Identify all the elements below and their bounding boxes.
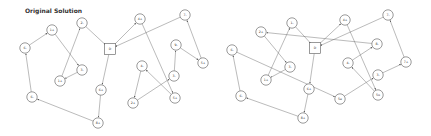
route-edge xyxy=(29,33,47,45)
customer-node: 3- xyxy=(169,71,179,81)
svg-text:3-: 3- xyxy=(376,73,379,77)
route-edge xyxy=(304,94,308,112)
customer-node: 1+ xyxy=(55,76,65,86)
customer-node: 2+ xyxy=(256,27,266,37)
customer-node: 5u xyxy=(373,90,383,100)
route-edge xyxy=(187,20,201,58)
svg-text:3-: 3- xyxy=(288,65,291,69)
svg-text:5+: 5+ xyxy=(201,61,206,65)
customer-node: 7+ xyxy=(401,57,411,67)
route-edge xyxy=(390,20,404,57)
customer-node: 6+ xyxy=(304,84,314,94)
customer-node: 6- xyxy=(27,92,37,102)
route-edge xyxy=(352,47,372,60)
route-edge xyxy=(55,34,78,65)
svg-text:2+: 2+ xyxy=(259,30,264,34)
route-edge xyxy=(102,54,109,84)
modified-solution-graph: D2+1-4+7-8-6-3-1+4-7+3-6+5e5u6-8+ xyxy=(227,10,411,123)
original-solution-graph: D1+6-2-3-1+4+7-9-5+4-3-2+5+6+8+6- xyxy=(20,10,208,128)
svg-text:6+: 6+ xyxy=(307,87,312,91)
svg-text:1-: 1- xyxy=(290,21,293,25)
route-edge xyxy=(233,56,240,91)
svg-text:4-: 4- xyxy=(346,61,349,65)
customer-node: 6+ xyxy=(96,85,106,95)
customer-node: 6- xyxy=(20,43,30,53)
svg-text:8+: 8+ xyxy=(96,121,101,125)
customer-node: 4- xyxy=(343,58,353,68)
customer-node: 8+ xyxy=(298,113,308,123)
route-edge xyxy=(86,27,106,45)
svg-text:1+: 1+ xyxy=(58,79,63,83)
svg-text:5e: 5e xyxy=(338,97,342,101)
route-edge xyxy=(137,79,169,100)
route-edge xyxy=(26,54,31,92)
svg-text:3-: 3- xyxy=(172,74,175,78)
route-edge xyxy=(347,25,376,90)
svg-text:4+: 4+ xyxy=(343,18,348,22)
route-edge xyxy=(310,53,314,83)
svg-text:4+: 4+ xyxy=(138,17,143,21)
route-edge xyxy=(65,72,77,78)
route-edge xyxy=(267,33,372,44)
customer-node: 5+ xyxy=(170,93,180,103)
svg-text:2-: 2- xyxy=(80,21,83,25)
route-edge xyxy=(344,78,373,96)
svg-text:9-: 9- xyxy=(174,43,177,47)
customer-node: 2- xyxy=(77,18,87,28)
customer-node: 8- xyxy=(372,39,382,49)
svg-text:7+: 7+ xyxy=(404,60,409,64)
customer-node: 8+ xyxy=(93,118,103,128)
svg-text:5+: 5+ xyxy=(173,96,178,100)
customer-node: 3- xyxy=(373,70,383,80)
svg-text:7-: 7- xyxy=(183,13,186,17)
route-edge xyxy=(174,51,175,71)
route-diagrams: D1+6-2-3-1+4+7-9-5+4-3-2+5+6+8+6-D2+1-4+… xyxy=(0,0,431,136)
depot-node: D xyxy=(105,44,116,55)
customer-node: 3- xyxy=(285,62,295,72)
customer-node: 7- xyxy=(383,10,393,20)
customer-node: 1+ xyxy=(47,25,57,35)
svg-text:1+: 1+ xyxy=(50,28,55,32)
route-edge xyxy=(383,64,401,72)
customer-node: 4+ xyxy=(340,15,350,25)
svg-text:4-: 4- xyxy=(140,64,143,68)
svg-text:2+: 2+ xyxy=(131,101,136,105)
customer-node: 1+ xyxy=(261,75,271,85)
customer-node: 6- xyxy=(236,91,246,101)
route-edge xyxy=(146,70,171,94)
svg-text:3-: 3- xyxy=(80,68,83,72)
route-edge xyxy=(296,27,311,44)
customer-node: 7- xyxy=(180,10,190,20)
route-edge xyxy=(180,48,198,60)
svg-text:5u: 5u xyxy=(376,93,380,97)
svg-text:6-: 6- xyxy=(239,94,242,98)
route-edge xyxy=(114,23,136,45)
customer-node: 5e xyxy=(335,94,345,104)
svg-text:8+: 8+ xyxy=(301,116,306,120)
customer-node: 9- xyxy=(171,40,181,50)
customer-node: 5+ xyxy=(198,58,208,68)
route-edge xyxy=(115,17,180,46)
svg-text:1+: 1+ xyxy=(264,78,269,82)
depot-node: D xyxy=(310,43,321,54)
customer-node: 4- xyxy=(137,61,147,71)
route-edge xyxy=(142,24,173,93)
route-edge xyxy=(237,52,335,96)
svg-text:8-: 8- xyxy=(375,42,378,46)
customer-node: 2+ xyxy=(128,98,138,108)
route-edge xyxy=(134,71,140,97)
customer-node: 6- xyxy=(227,45,237,55)
svg-text:6-: 6- xyxy=(230,48,233,52)
route-edge xyxy=(264,36,286,63)
svg-text:6+: 6+ xyxy=(99,88,104,92)
customer-node: 1- xyxy=(287,18,297,28)
customer-node: 3- xyxy=(77,65,87,75)
customer-node: 4+ xyxy=(135,14,145,24)
route-edge xyxy=(37,99,93,121)
route-edge xyxy=(99,95,101,117)
svg-text:6-: 6- xyxy=(23,46,26,50)
svg-text:6-: 6- xyxy=(30,95,33,99)
svg-text:7-: 7- xyxy=(386,13,389,17)
route-edge xyxy=(246,98,298,116)
